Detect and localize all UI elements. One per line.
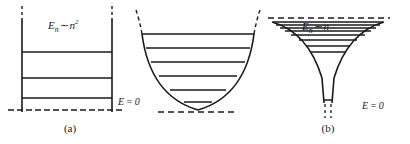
panel-c-drawing (262, 0, 410, 144)
panel-b-drawing (120, 0, 280, 144)
panel-coulomb-well: E = 0 En∼−1n2 (c) (262, 0, 410, 144)
quantum-wells-figure: En∼n2 E = 0 (a) En∼n E = 0 (0, 0, 410, 144)
parabola-left-arm-dashed (136, 10, 142, 34)
coulomb-well-right-wall (332, 22, 384, 103)
panel-infinite-square-well: En∼n2 E = 0 (a) (0, 0, 140, 144)
panel-a-formula-label: En∼n2 (48, 20, 78, 34)
coulomb-well-left-wall (272, 22, 324, 103)
panel-a-caption: (a) (40, 122, 100, 134)
parabola-well (142, 34, 254, 110)
panel-harmonic-oscillator: En∼n E = 0 (b) (130, 0, 270, 144)
parabola-right-arm-dashed (254, 10, 260, 34)
